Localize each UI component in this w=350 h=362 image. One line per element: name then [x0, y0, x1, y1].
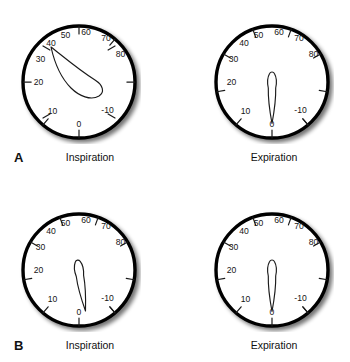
tick-label-60: 60 — [81, 27, 91, 37]
tick-label-0: 0 — [77, 307, 82, 317]
tick-label-80: 80 — [309, 237, 319, 247]
tick-label-50: 50 — [61, 218, 71, 228]
tick-label-50: 50 — [254, 30, 264, 40]
tick-label-70: 70 — [101, 33, 111, 43]
tick-label-neg10: -10 — [101, 293, 114, 303]
tick-label-70: 70 — [294, 221, 304, 231]
phase-label-a-expiration: Expiration — [222, 151, 326, 163]
tick-label-20: 20 — [34, 265, 44, 275]
tick-label-40: 40 — [239, 226, 249, 236]
gauge-dial-b-expiration: 0 10 20 30 40 50 60 70 80 -10 — [210, 208, 334, 332]
panel-letter-b: B — [14, 338, 23, 353]
tick-label-50: 50 — [254, 218, 264, 228]
tick-label-10: 10 — [48, 294, 58, 304]
tick-label-30: 30 — [36, 54, 46, 64]
tick-label-80: 80 — [309, 49, 319, 59]
gauge-dial-a-expiration: 0 10 20 30 40 50 60 70 80 -10 — [210, 20, 334, 144]
gauge-b-inspiration: 0 10 20 30 40 50 60 70 80 -10 — [17, 208, 141, 332]
tick-label-30: 30 — [36, 242, 46, 252]
tick-label-70: 70 — [101, 221, 111, 231]
tick-label-60: 60 — [274, 215, 284, 225]
gauge-a-expiration: 0 10 20 30 40 50 60 70 80 -10 — [210, 20, 334, 144]
tick-label-80: 80 — [116, 237, 126, 247]
tick-label-80: 80 — [116, 49, 126, 59]
phase-label-a-inspiration: Inspiration — [38, 151, 142, 163]
tick-label-20: 20 — [227, 77, 237, 87]
tick-label-50: 50 — [61, 30, 71, 40]
tick-label-neg10: -10 — [294, 105, 307, 115]
gauge-a-inspiration: 0 10 20 30 40 50 60 70 80 -10 — [17, 20, 141, 144]
tick-label-0: 0 — [77, 119, 82, 129]
tick-label-20: 20 — [34, 77, 44, 87]
tick-label-30: 30 — [229, 242, 239, 252]
tick-label-10: 10 — [241, 106, 251, 116]
gauge-b-expiration: 0 10 20 30 40 50 60 70 80 -10 — [210, 208, 334, 332]
tick-label-10: 10 — [48, 106, 58, 116]
tick-label-60: 60 — [81, 215, 91, 225]
tick-label-60: 60 — [274, 27, 284, 37]
tick-label-70: 70 — [294, 33, 304, 43]
tick-label-10: 10 — [241, 294, 251, 304]
tick-label-20: 20 — [227, 265, 237, 275]
gauge-dial-b-inspiration: 0 10 20 30 40 50 60 70 80 -10 — [17, 208, 141, 332]
tick-label-40: 40 — [46, 226, 56, 236]
gauge-dial-a-inspiration: 0 10 20 30 40 50 60 70 80 -10 — [17, 20, 141, 144]
tick-label-30: 30 — [229, 54, 239, 64]
tick-label-40: 40 — [239, 38, 249, 48]
gauge-figure: 0 10 20 30 40 50 60 70 80 -10 — [0, 0, 350, 362]
tick-label-neg10: -10 — [294, 293, 307, 303]
tick-label-neg10: -10 — [101, 105, 114, 115]
phase-label-b-inspiration: Inspiration — [38, 339, 142, 351]
panel-letter-a: A — [14, 150, 23, 165]
phase-label-b-expiration: Expiration — [222, 339, 326, 351]
